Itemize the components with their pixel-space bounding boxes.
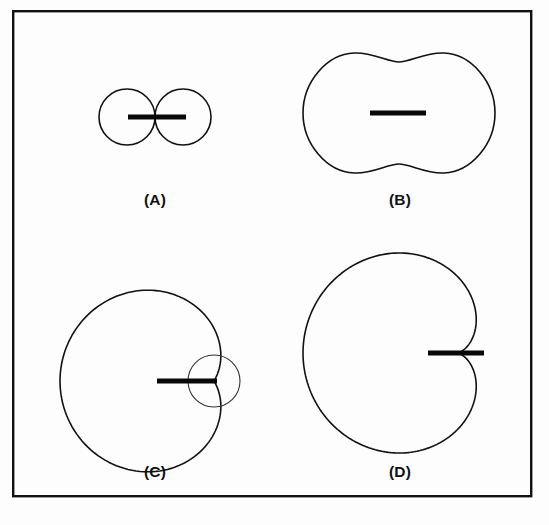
panel-a: (A) xyxy=(99,89,211,208)
panel-d: (D) xyxy=(303,253,484,480)
panel-d-label: (D) xyxy=(389,463,411,480)
figure-container: (A) (B) (C) (D) xyxy=(0,0,549,525)
panel-a-label: (A) xyxy=(144,191,166,208)
panel-b: (B) xyxy=(303,53,495,208)
panel-b-label: (B) xyxy=(389,191,411,208)
polar-curves-figure: (A) (B) (C) (D) xyxy=(0,0,549,525)
figure-border xyxy=(13,11,531,496)
panel-c: (C) xyxy=(60,290,240,480)
panel-c-label: (C) xyxy=(144,463,166,480)
